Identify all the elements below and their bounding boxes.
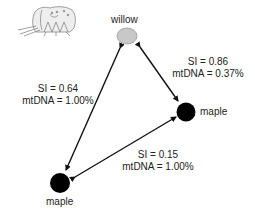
- mtdna-value: mtDNA = 1.00%: [16, 95, 100, 107]
- si-value: SI = 0.64: [16, 83, 100, 95]
- node-maple-bottom: [50, 173, 70, 193]
- insect-icon: [18, 7, 75, 36]
- node-willow: [117, 28, 137, 44]
- mtdna-value: mtDNA = 1.00%: [114, 161, 202, 173]
- si-value: SI = 0.15: [114, 149, 202, 161]
- edge-label-willow-maple-bottom: SI = 0.64 mtDNA = 1.00%: [16, 83, 100, 107]
- node-label-willow: willow: [111, 14, 138, 25]
- edge-label-maple-bottom-maple-right: SI = 0.15 mtDNA = 1.00%: [114, 149, 202, 173]
- edge-label-willow-maple-right: SI = 0.86 mtDNA = 0.37%: [164, 56, 252, 80]
- si-value: SI = 0.86: [164, 56, 252, 68]
- node-maple-right: [177, 103, 196, 122]
- mtdna-value: mtDNA = 0.37%: [164, 68, 252, 80]
- node-label-maple-right: maple: [200, 106, 227, 117]
- node-label-maple-bottom: maple: [46, 196, 73, 207]
- edge-willow-maple-bottom: [66, 48, 120, 170]
